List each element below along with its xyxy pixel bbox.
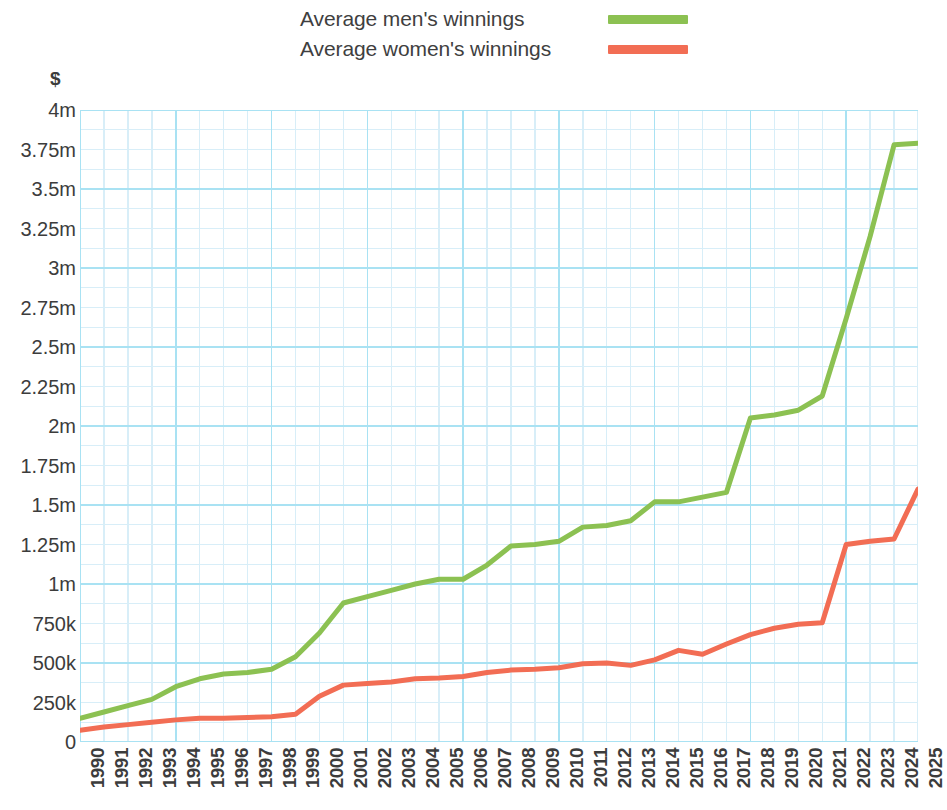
legend-label-men: Average men's winnings (300, 7, 590, 31)
x-tick-label: 1998 (279, 748, 301, 788)
plot-svg (80, 110, 918, 742)
x-tick-label: 2017 (733, 748, 755, 788)
y-tick-label: 2.75m (20, 296, 76, 319)
x-tick-label: 2022 (853, 748, 875, 788)
x-tick-label: 1996 (231, 748, 253, 788)
x-tick-label: 2012 (614, 748, 636, 788)
y-tick-label: 1.25m (20, 533, 76, 556)
x-tick-label: 2021 (829, 748, 851, 788)
x-tick-label: 2018 (757, 748, 779, 788)
x-tick-label: 2010 (566, 748, 588, 788)
x-tick-label: 2001 (350, 748, 372, 788)
y-tick-label: 750k (33, 612, 76, 635)
y-tick-label: 2.25m (20, 375, 76, 398)
legend-item-men: Average men's winnings (300, 4, 700, 34)
legend-swatch-men (608, 15, 688, 24)
x-tick-label: 2005 (446, 748, 468, 788)
x-tick-label: 2011 (590, 748, 612, 787)
x-tick-label: 1995 (207, 748, 229, 788)
y-tick-label: 3.25m (20, 217, 76, 240)
x-tick-label: 2019 (781, 748, 803, 788)
x-tick-label: 2004 (422, 748, 444, 788)
y-tick-label: 250k (33, 691, 76, 714)
x-tick-label: 2025 (925, 748, 947, 788)
x-tick-label: 2009 (542, 748, 564, 788)
x-tick-label: 2006 (470, 748, 492, 788)
legend-label-women: Average women's winnings (300, 37, 590, 61)
x-tick-label: 2016 (710, 748, 732, 788)
x-tick-label: 2008 (518, 748, 540, 788)
x-tick-label: 2007 (494, 748, 516, 788)
x-tick-label: 2003 (398, 748, 420, 788)
x-tick-label: 2002 (374, 748, 396, 788)
y-tick-label: 1.5m (32, 494, 76, 517)
y-tick-label: 2.5m (32, 336, 76, 359)
x-tick-label: 2014 (662, 748, 684, 788)
x-tick-label: 2015 (686, 748, 708, 788)
y-tick-label: 3m (48, 257, 76, 280)
chart-legend: Average men's winnings Average women's w… (300, 4, 700, 64)
x-tick-label: 1992 (135, 748, 157, 788)
y-tick-label: 2m (48, 415, 76, 438)
x-tick-label: 2023 (877, 748, 899, 788)
x-tick-label: 1990 (87, 748, 109, 788)
x-tick-label: 2000 (326, 748, 348, 788)
legend-item-women: Average women's winnings (300, 34, 700, 64)
series-lines (80, 143, 918, 730)
x-tick-label: 1994 (183, 748, 205, 788)
x-axis-tick-labels: 1990199119921993199419951996199719981999… (80, 748, 935, 810)
grid-major (80, 110, 918, 742)
series-line-men (80, 143, 918, 718)
x-tick-label: 2020 (805, 748, 827, 788)
x-tick-label: 1991 (111, 748, 133, 788)
y-tick-label: 1.75m (20, 454, 76, 477)
plot-area (80, 110, 918, 742)
y-axis-tick-labels: 4m3.75m3.5m3.25m3m2.75m2.5m2.25m2m1.75m1… (0, 0, 76, 810)
legend-swatch-women (608, 45, 688, 54)
x-tick-label: 1997 (255, 748, 277, 788)
y-tick-label: 3.5m (32, 178, 76, 201)
x-tick-label: 2013 (638, 748, 660, 788)
y-tick-label: 1m (48, 573, 76, 596)
y-tick-label: 3.75m (20, 138, 76, 161)
y-tick-label: 0 (65, 731, 76, 754)
x-tick-label: 1999 (302, 748, 324, 788)
x-tick-label: 2024 (901, 748, 923, 788)
y-tick-label: 4m (48, 99, 76, 122)
x-tick-label: 1993 (159, 748, 181, 788)
y-tick-label: 500k (33, 652, 76, 675)
